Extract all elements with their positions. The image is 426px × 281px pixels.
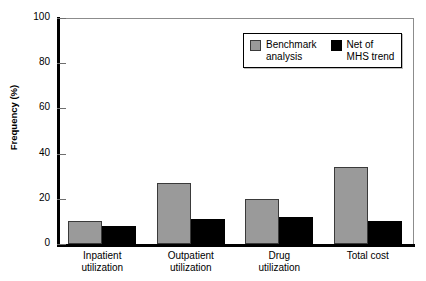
y-tick-label: 0 — [22, 238, 50, 248]
bar — [334, 167, 368, 244]
y-tick-label: 20 — [22, 193, 50, 203]
x-axis-category-label: Total cost — [318, 250, 418, 262]
bar — [157, 183, 191, 244]
bar — [279, 217, 313, 244]
x-axis-category-label-line: Outpatient — [141, 250, 241, 262]
y-tick-mark — [57, 244, 66, 245]
legend-swatch-gray-icon — [250, 40, 261, 51]
bar-chart-figure: Frequency (%) 020406080100 Inpatientutil… — [0, 0, 426, 281]
x-axis-line — [57, 244, 415, 247]
bar-group — [68, 18, 136, 244]
x-axis-category-label-line: Drug — [229, 250, 329, 262]
y-tick-label: 60 — [22, 102, 50, 112]
legend-entry-net-of-mhs-trend: Net of MHS trend — [331, 39, 395, 62]
bar — [245, 199, 279, 244]
legend-swatch-black-icon — [331, 40, 342, 51]
legend-entry-benchmark-analysis: Benchmark analysis — [250, 39, 317, 62]
bar — [191, 219, 225, 244]
y-tick-label: 100 — [22, 12, 50, 22]
x-axis-category-label-line: utilization — [141, 262, 241, 274]
bar — [102, 226, 136, 244]
x-axis-category-label-line: Inpatient — [52, 250, 152, 262]
bar — [68, 221, 102, 244]
legend-label-benchmark-analysis: Benchmark analysis — [266, 39, 317, 62]
x-axis-category-label-line: Total cost — [318, 250, 418, 262]
y-tick-label: 80 — [22, 57, 50, 67]
y-tick-label: 40 — [22, 148, 50, 158]
x-axis-category-label-line: utilization — [229, 262, 329, 274]
y-axis-title: Frequency (%) — [8, 58, 19, 178]
x-axis-category-label-line: utilization — [52, 262, 152, 274]
x-axis-category-label: Outpatientutilization — [141, 250, 241, 274]
legend-label-net-of-mhs-trend: Net of MHS trend — [347, 39, 395, 62]
bar-group — [157, 18, 225, 244]
x-axis-category-label: Drugutilization — [229, 250, 329, 274]
bar — [368, 221, 402, 244]
chart-legend: Benchmark analysis Net of MHS trend — [243, 33, 402, 68]
x-axis-category-label: Inpatientutilization — [52, 250, 152, 274]
